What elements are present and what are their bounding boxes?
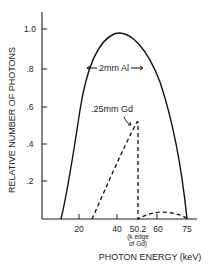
x-tick-label: 20 [74,224,84,234]
x-tick-label: 75 [182,224,192,234]
gd-annotation: .25mm Gd [91,104,133,114]
arrow-right-icon [131,66,143,70]
x-tick-label: 60 [153,224,163,234]
x-axis-label: PHOTON ENERGY (keV) [99,252,202,262]
y-axis-label: RELATIVE NUMBER OF PHOTONS [7,47,17,193]
y-tick-label: .6 [26,102,33,112]
y-tick-label: .2 [26,176,33,186]
y-tick-label: .8 [26,64,33,74]
al-annotation: 2mm Al [99,63,129,73]
arrow-pointer-icon [124,117,131,125]
y-tick-label: .4 [26,139,33,149]
arrow-left-icon [87,66,97,70]
series-025mm-gd [92,122,187,219]
spectrum-chart: .2 .4 .6 .8 1.0 20 40 50.2 60 75 (k edge… [0,0,209,269]
kedge-note: of Gd) [129,240,147,248]
y-ticks [42,29,47,181]
x-tick-label: 40 [112,224,122,234]
series-2mm-al [61,33,187,219]
y-tick-label: 1.0 [24,24,36,34]
